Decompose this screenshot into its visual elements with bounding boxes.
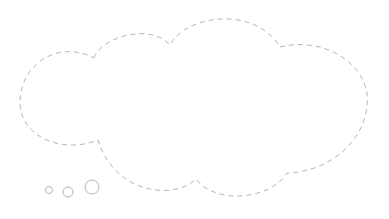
thought-bubble-graphic — [0, 0, 389, 219]
cloud-outline — [20, 19, 367, 196]
cloud-icon — [0, 0, 389, 219]
trail-bubble-small — [46, 187, 53, 194]
trail-bubble-medium — [63, 187, 73, 197]
trail-bubble-large — [85, 180, 99, 194]
